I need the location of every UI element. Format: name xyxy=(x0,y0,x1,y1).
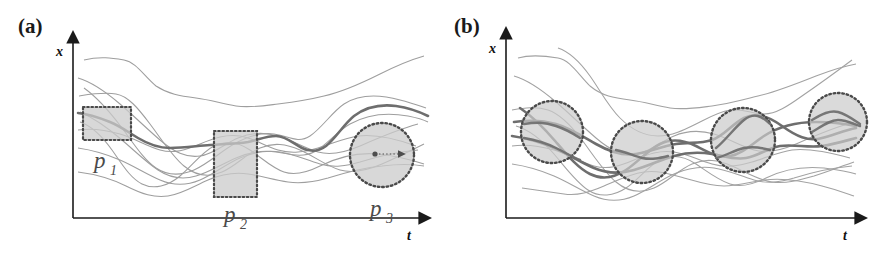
figure-root: (a) x t xyxy=(0,0,892,256)
panel-a-tag: (a) xyxy=(18,14,43,38)
region-p2-subscript: 2 xyxy=(240,217,247,232)
region-p3-circle[interactable] xyxy=(350,123,414,187)
region-p2[interactable]: p 2 xyxy=(214,131,257,232)
panel-b-canvas: (b) x t xyxy=(446,0,892,256)
x-axis-label: t xyxy=(843,228,848,243)
b-circle-1[interactable] xyxy=(521,101,583,163)
region-p2-label: p xyxy=(222,202,236,227)
region-p1-label: p xyxy=(92,148,106,173)
region-p3-center-dot xyxy=(372,151,377,156)
region-p3-subscript: 3 xyxy=(385,211,393,226)
panel-b: (b) x t xyxy=(446,0,892,256)
panel-b-tag: (b) xyxy=(454,14,480,38)
panel-a-canvas: (a) x t xyxy=(0,0,446,256)
trajectory-thin xyxy=(518,56,856,109)
region-p2-box[interactable] xyxy=(214,131,257,197)
region-p3-label: p xyxy=(368,196,382,221)
region-p1-box[interactable] xyxy=(83,107,131,140)
x-axis-label: t xyxy=(407,228,412,243)
trajectory-thin xyxy=(84,56,424,107)
region-p1-subscript: 1 xyxy=(110,163,117,178)
b-circle-3[interactable] xyxy=(711,108,775,172)
region-p3[interactable]: p 3 xyxy=(350,123,414,226)
panel-a: (a) x t xyxy=(0,0,446,256)
panel-b-regions[interactable] xyxy=(521,93,867,183)
y-axis-label: x xyxy=(55,44,63,59)
y-axis-label: x xyxy=(488,41,496,56)
